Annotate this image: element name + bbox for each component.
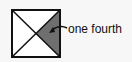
fraction-diagram: one fourth [0, 0, 132, 62]
fraction-label: one fourth [68, 22, 122, 36]
